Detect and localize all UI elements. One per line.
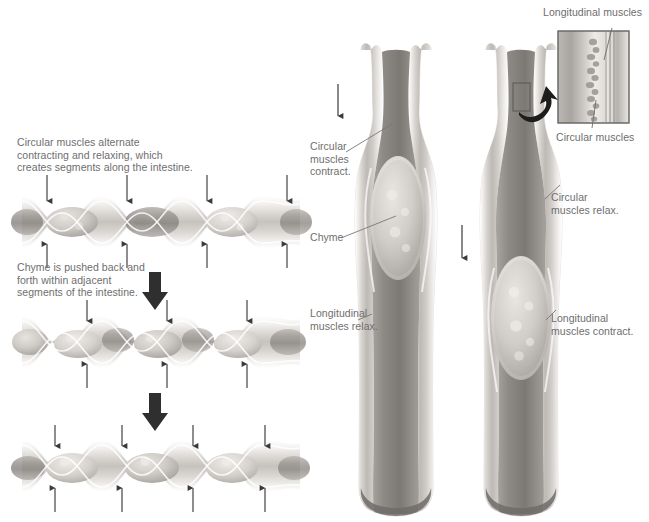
- progress-arrow-2: [142, 393, 168, 431]
- label-longitudinal-muscles-relax: Longitudinal muscles relax.: [310, 307, 394, 332]
- label-longitudinal-muscles-contract: Longitudinal muscles contract.: [551, 312, 647, 337]
- label-longitudinal-muscles: Longitudinal muscles: [543, 6, 649, 19]
- segmentation-stage-1: [11, 175, 312, 268]
- intestinal-motility-figure: Circular muscles alternate contracting a…: [0, 0, 649, 522]
- label-circular-muscles-contract: Circular muscles contract.: [310, 140, 370, 178]
- label-chyme: Chyme: [310, 231, 370, 244]
- label-circular-muscles: Circular muscles: [556, 131, 648, 144]
- peristalsis-tube-left: [355, 41, 437, 516]
- caption-circular-muscles: Circular muscles alternate contracting a…: [17, 136, 207, 174]
- caption-chyme-pushed: Chyme is pushed back and forth within ad…: [17, 261, 187, 299]
- segmentation-stage-3: [11, 425, 310, 512]
- label-circular-muscles-relax: Circular muscles relax.: [551, 191, 643, 216]
- segmentation-stage-2: [12, 300, 306, 388]
